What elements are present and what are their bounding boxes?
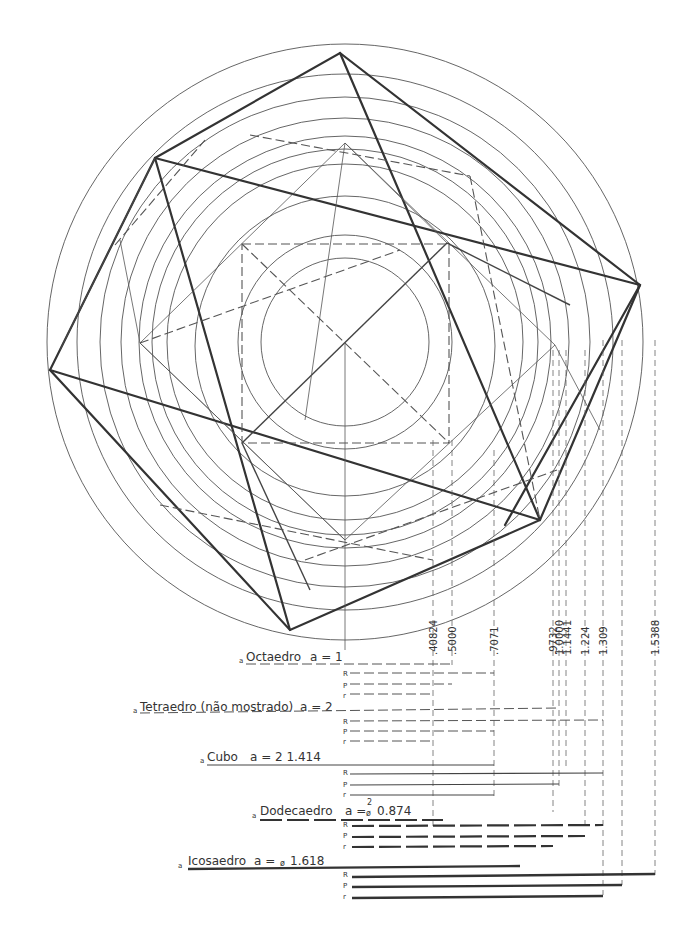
legend-octaedro: a Octaedro a = 1 R P r (239, 650, 494, 700)
value-label-5000: .5000 (447, 626, 458, 655)
row-P: P (343, 882, 347, 890)
marker-a: a (200, 757, 204, 765)
row-r: r (343, 791, 346, 799)
row-R: R (343, 718, 348, 726)
marker-a: a (178, 862, 182, 870)
value-label-40824: .40824 (428, 620, 439, 655)
marker-a: a (239, 657, 243, 665)
legend-tetraedro: a Tetraedro (não mostrado) a = 2 R P r (133, 700, 603, 746)
marker-a: a (133, 707, 137, 715)
legend-icosaedro: a Icosaedro a = ø 1.618 R P r (178, 854, 655, 901)
legend-cubo: a Cubo a = 2 1.414 R P r (200, 750, 603, 799)
guide-lines (433, 340, 655, 895)
thin-construction-lines (120, 143, 600, 650)
solid-formula-prefix: a = (345, 804, 366, 818)
solid-formula-value: 1.618 (290, 854, 324, 868)
cube-square (60, 158, 570, 590)
solid-formula-value: 0.874 (377, 804, 411, 818)
solid-formula: a = 2 1.414 (250, 750, 321, 764)
row-R: R (343, 821, 348, 829)
solid-name: Dodecaedro (260, 804, 333, 818)
guide-value-labels: .40824 .5000 .7071 .9732 1.0000 1.1441 1… (428, 620, 661, 655)
row-R: R (343, 769, 348, 777)
legend-dodecaedro: a Dodecaedro a = 2 ø 0.874 R P r (252, 798, 603, 851)
value-label-1224: 1.224 (580, 626, 591, 655)
solid-name: Icosaedro (188, 854, 246, 868)
row-r: r (343, 738, 346, 746)
phi-symbol: ø (280, 859, 285, 868)
value-label-11441: 1.1441 (562, 620, 573, 655)
row-r: r (343, 692, 346, 700)
value-label-15388: 1.5388 (650, 620, 661, 655)
value-label-1309: 1.309 (598, 626, 609, 655)
solid-formula: a = 1 (310, 650, 343, 664)
phi-symbol: ø (366, 809, 371, 818)
row-R: R (343, 871, 348, 879)
row-r: r (343, 843, 346, 851)
solid-formula: a = 2 (300, 700, 333, 714)
dashed-square (115, 135, 557, 560)
row-R: R (343, 670, 348, 678)
solid-name: Octaedro (246, 650, 301, 664)
row-P: P (343, 781, 347, 789)
solid-formula-prefix: a = (254, 854, 275, 868)
row-P: P (343, 728, 347, 736)
formula-superscript: 2 (367, 798, 372, 807)
row-P: P (343, 832, 347, 840)
platonic-solids-nesting-diagram: .40824 .5000 .7071 .9732 1.0000 1.1441 1… (0, 0, 699, 937)
solid-name: Cubo (207, 750, 238, 764)
marker-a: a (252, 812, 256, 820)
value-label-7071: .7071 (489, 626, 500, 655)
row-P: P (343, 682, 347, 690)
row-r: r (343, 893, 346, 901)
